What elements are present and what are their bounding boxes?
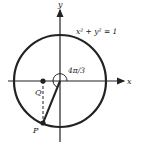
point-p-dot [40, 120, 45, 125]
y-label: y [57, 0, 63, 9]
angle-label: 4π/3 [67, 66, 85, 75]
equation-label: x² + y² = 1 [76, 27, 117, 36]
radius-op [43, 81, 60, 123]
x-label: x [127, 77, 132, 86]
p-label: P [32, 126, 39, 135]
point-q-dot [40, 78, 45, 83]
unit-circle-diagram: x y x² + y² = 1 4π/3 Q P [0, 0, 142, 149]
q-label: Q [35, 88, 42, 97]
